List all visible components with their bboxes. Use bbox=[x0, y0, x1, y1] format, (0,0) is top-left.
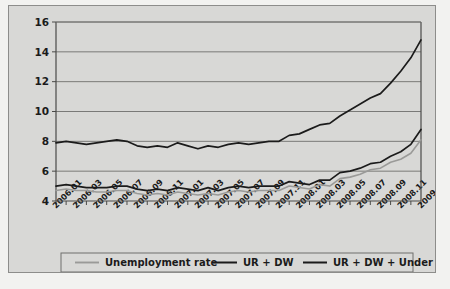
y-tick-label: 14 bbox=[34, 46, 49, 58]
y-tick-label: 10 bbox=[34, 105, 49, 117]
y-tick-label: 16 bbox=[34, 16, 49, 28]
legend-label: UR + DW bbox=[243, 257, 294, 268]
y-tick-label: 12 bbox=[34, 75, 49, 87]
y-tick-label: 4 bbox=[42, 195, 49, 207]
y-tick-label: 8 bbox=[42, 135, 49, 147]
line-chart: 46810121416 2006.012006.032006.052006.07… bbox=[9, 6, 435, 272]
chart-frame: 46810121416 2006.012006.032006.052006.07… bbox=[8, 5, 436, 273]
series-line bbox=[56, 40, 421, 149]
gridlines bbox=[56, 22, 421, 171]
y-tick-label: 6 bbox=[42, 165, 49, 177]
data-series bbox=[56, 40, 421, 195]
chart-legend: Unemployment rateUR + DWUR + DW + Under bbox=[61, 253, 433, 272]
legend-label: UR + DW + Under bbox=[333, 257, 433, 268]
legend-label: Unemployment rate bbox=[105, 257, 217, 268]
y-axis-labels: 46810121416 bbox=[34, 16, 49, 207]
x-axis-labels: 2006.012006.032006.052006.072006.092006.… bbox=[50, 177, 435, 211]
